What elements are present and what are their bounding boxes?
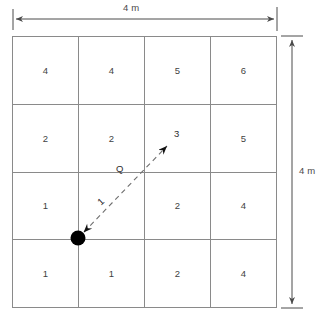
grid-cell: 2 xyxy=(145,173,211,241)
grid-cell-value: 1 xyxy=(43,200,48,211)
grid-cell: 4 xyxy=(13,37,79,105)
grid-cell: 2 xyxy=(79,105,145,173)
grid-cell: 1 xyxy=(13,173,79,241)
grid-cell: 1 xyxy=(13,240,79,308)
top-dimension-line xyxy=(13,7,277,31)
grid-cell: 5 xyxy=(145,37,211,105)
grid-cell-value: 6 xyxy=(241,65,246,76)
grid-cell-value: 2 xyxy=(109,133,114,144)
grid-cell-value: 4 xyxy=(241,200,246,211)
right-dimension-label: 4 m xyxy=(299,165,315,176)
grid-cell-value: 4 xyxy=(241,268,246,279)
grid-cell-value: 4 xyxy=(43,65,48,76)
grid-cell: 2 xyxy=(145,240,211,308)
grid-vector-figure: 4 m 4 m 4 4 5 6 2 2 3 5 1 1 2 4 1 1 2 4 … xyxy=(0,0,333,322)
grid-cell-value: 1 xyxy=(43,268,48,279)
grid-cell: 1 xyxy=(79,173,145,241)
top-dimension-label: 4 m xyxy=(123,2,139,13)
segment-label-three: 3 xyxy=(174,128,179,139)
grid-cell-value: 2 xyxy=(175,268,180,279)
grid-cell-value: 4 xyxy=(109,65,114,76)
grid-cell-value: 1 xyxy=(109,268,114,279)
grid-cell-value: 5 xyxy=(175,65,180,76)
grid-cell-value: 2 xyxy=(43,133,48,144)
grid-cell: 6 xyxy=(211,37,277,105)
grid-cell: 2 xyxy=(13,105,79,173)
point-label-q: Q xyxy=(116,163,123,174)
grid-cell: 4 xyxy=(79,37,145,105)
grid-cell: 4 xyxy=(211,173,277,241)
grid-cell: 4 xyxy=(211,240,277,308)
value-grid: 4 4 5 6 2 2 3 5 1 1 2 4 1 1 2 4 xyxy=(12,36,277,308)
grid-cell-value: 2 xyxy=(175,200,180,211)
grid-cell-value: 5 xyxy=(241,133,246,144)
grid-cell: 5 xyxy=(211,105,277,173)
grid-cell: 1 xyxy=(79,240,145,308)
